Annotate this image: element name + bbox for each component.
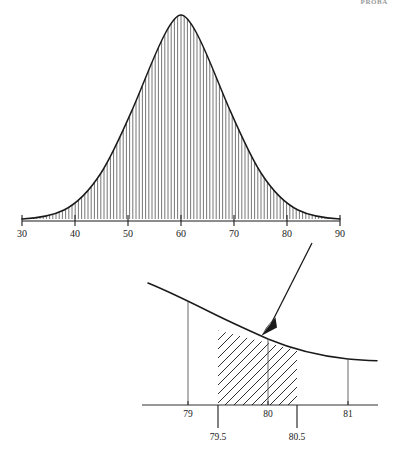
page-header-text: PROBA bbox=[361, 0, 389, 6]
main-tick-label-40: 40 bbox=[70, 228, 80, 239]
detail-tick-label-80-5: 80.5 bbox=[289, 432, 306, 442]
detail-upper-tick-labels: 79 80 81 bbox=[183, 409, 353, 419]
figure-container: PROBA bbox=[0, 0, 394, 468]
main-tick-label-50: 50 bbox=[123, 228, 133, 239]
detail-upper-ticks bbox=[188, 401, 348, 405]
main-tick-label-80: 80 bbox=[282, 228, 292, 239]
magnified-tail-chart: 79 80 81 79.5 80.5 bbox=[142, 283, 378, 442]
statistics-figure: 30 40 50 60 70 80 90 bbox=[0, 0, 394, 468]
detail-tick-label-81: 81 bbox=[343, 409, 353, 419]
main-axis-tick-labels: 30 40 50 60 70 80 90 bbox=[17, 228, 345, 239]
detail-lower-tick-labels: 79.5 80.5 bbox=[210, 432, 306, 442]
main-tick-label-60: 60 bbox=[176, 228, 186, 239]
detail-lower-ticks bbox=[218, 405, 297, 428]
detail-vertical-droplines bbox=[188, 302, 348, 405]
main-tick-label-70: 70 bbox=[229, 228, 239, 239]
bell-curve-vertical-hatch bbox=[24, 0, 338, 222]
main-tick-label-90: 90 bbox=[335, 228, 345, 239]
normal-distribution-chart: 30 40 50 60 70 80 90 bbox=[17, 0, 345, 239]
detail-tick-label-79: 79 bbox=[183, 409, 193, 419]
zoom-indicator-arrow bbox=[261, 243, 312, 336]
detail-tick-label-80: 80 bbox=[263, 409, 273, 419]
main-tick-label-30: 30 bbox=[17, 228, 27, 239]
detail-tick-label-79-5: 79.5 bbox=[210, 432, 227, 442]
